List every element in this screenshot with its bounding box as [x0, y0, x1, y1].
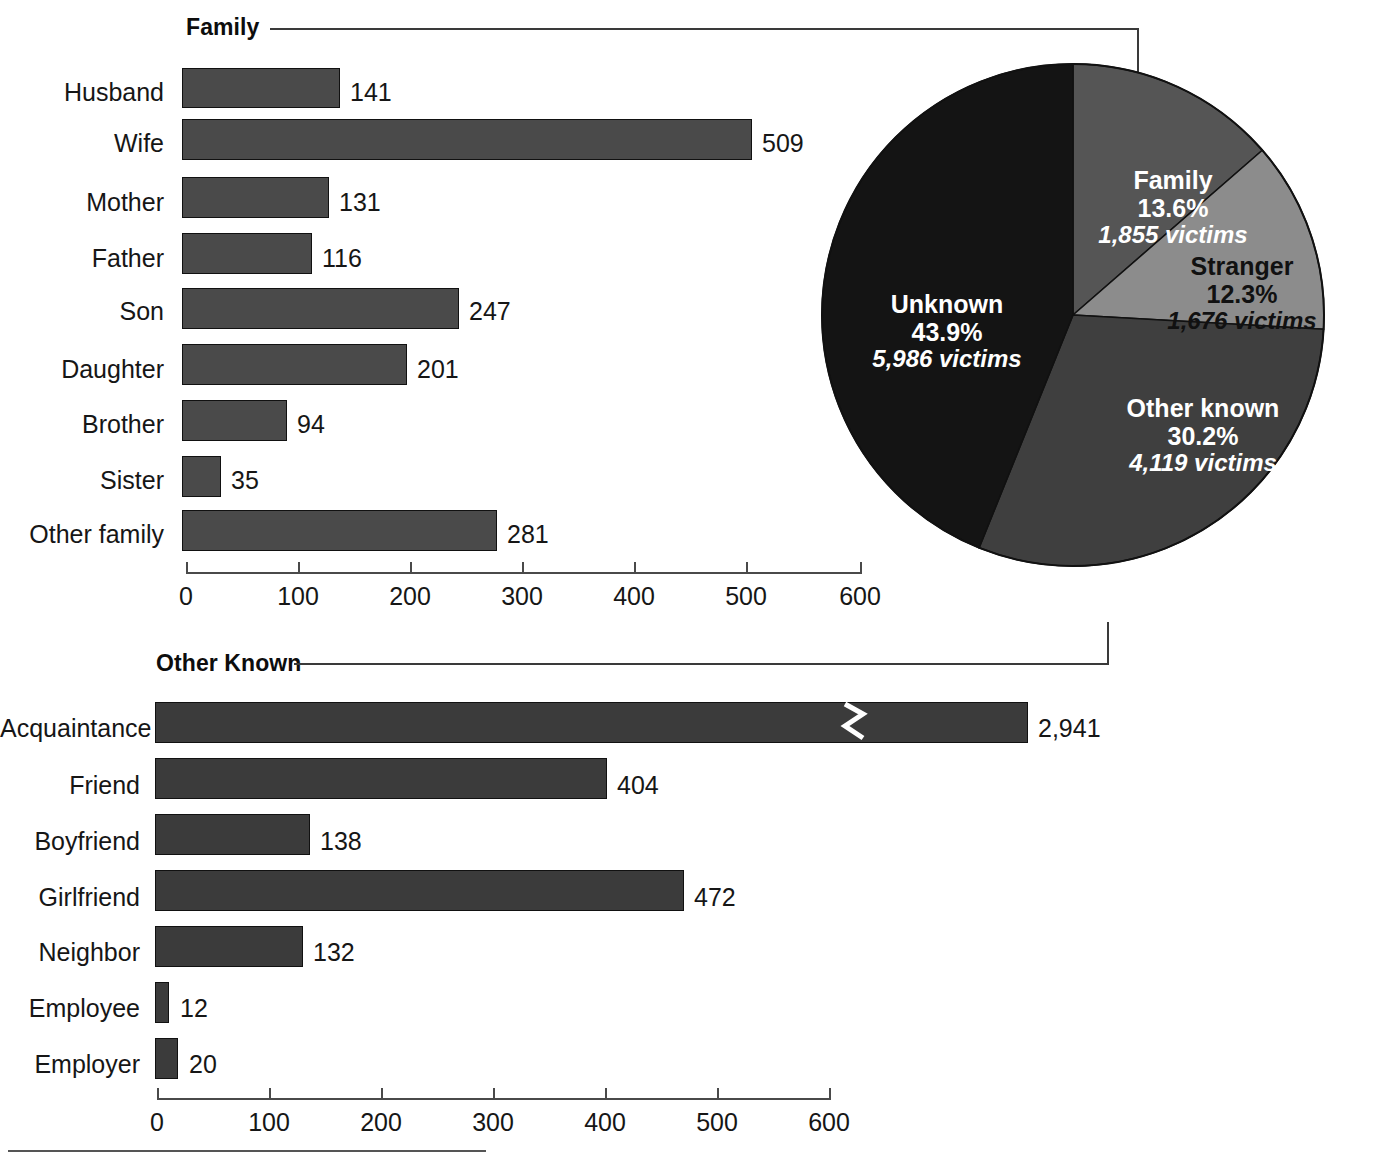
- bottom-row-label: Neighbor: [0, 940, 140, 965]
- bottom-value-label: 20: [189, 1052, 217, 1077]
- bottom-row-label: Friend: [0, 773, 140, 798]
- bottom-value-label: 12: [180, 996, 208, 1021]
- figure-canvas: Family Husband Wife Mother Father Son Da…: [0, 0, 1379, 1164]
- bottom-chart-title: Other Known: [156, 650, 301, 677]
- bottom-value-label: 132: [313, 940, 355, 965]
- bottom-value-label: 472: [694, 885, 736, 910]
- bottom-bar-employee: [155, 982, 169, 1023]
- bottom-bar-girlfriend: [155, 870, 684, 911]
- bottom-value-label: 2,941: [1038, 716, 1101, 741]
- bottom-bar-employer: [155, 1038, 178, 1079]
- top-bar-husband: [182, 68, 340, 108]
- top-bar-mother: [182, 177, 329, 218]
- top-row-label: Daughter: [0, 357, 164, 382]
- top-row-label: Mother: [0, 190, 164, 215]
- pie-svg: [820, 62, 1326, 568]
- top-xtick-label: 400: [594, 584, 674, 609]
- top-value-label: 141: [350, 80, 392, 105]
- top-row-label: Son: [0, 299, 164, 324]
- top-xtick-label: 600: [820, 584, 900, 609]
- top-value-label: 281: [507, 522, 549, 547]
- bottom-bar-neighbor: [155, 926, 303, 967]
- bottom-xtick-label: 500: [677, 1110, 757, 1135]
- top-bar-son: [182, 288, 459, 329]
- top-bar-daughter: [182, 344, 407, 385]
- top-row-label: Father: [0, 246, 164, 271]
- top-chart-title: Family: [186, 14, 259, 41]
- top-xtick-label: 500: [706, 584, 786, 609]
- top-xtick-label: 0: [156, 584, 216, 609]
- top-xtick-label: 200: [370, 584, 450, 609]
- bottom-row-label: Employee: [0, 996, 140, 1021]
- other-known-leader-horizontal: [294, 663, 1109, 665]
- bottom-bar-boyfriend: [155, 814, 310, 855]
- top-value-label: 509: [762, 131, 804, 156]
- top-row-label: Sister: [0, 468, 164, 493]
- other-known-leader-vertical: [1107, 622, 1109, 665]
- top-xtick-label: 300: [482, 584, 562, 609]
- top-bar-brother: [182, 400, 287, 441]
- top-value-label: 35: [231, 468, 259, 493]
- family-leader-horizontal: [270, 28, 1139, 30]
- bottom-xtick-label: 600: [789, 1110, 869, 1135]
- top-value-label: 201: [417, 357, 459, 382]
- bottom-row-label: Boyfriend: [0, 829, 140, 854]
- top-value-label: 247: [469, 299, 511, 324]
- top-row-label: Wife: [0, 131, 164, 156]
- top-row-label: Husband: [0, 80, 164, 105]
- bottom-xtick-label: 200: [341, 1110, 421, 1135]
- bottom-row-label: Acquaintance: [0, 716, 140, 741]
- bottom-bar-friend: [155, 758, 607, 799]
- bottom-value-label: 138: [320, 829, 362, 854]
- top-xtick-label: 100: [258, 584, 338, 609]
- footer-divider: [8, 1150, 486, 1152]
- top-value-label: 116: [322, 246, 362, 271]
- top-value-label: 131: [339, 190, 381, 215]
- top-row-label: Other family: [0, 522, 164, 547]
- bottom-xtick-label: 0: [127, 1110, 187, 1135]
- top-bar-wife: [182, 119, 752, 160]
- top-value-label: 94: [297, 412, 325, 437]
- top-bar-father: [182, 233, 312, 274]
- bottom-bar-acquaintance: [155, 702, 1028, 743]
- bottom-row-label: Girlfriend: [0, 885, 140, 910]
- bottom-xtick-label: 100: [229, 1110, 309, 1135]
- bottom-value-label: 404: [617, 773, 659, 798]
- top-bar-other-family: [182, 510, 497, 551]
- top-bar-sister: [182, 456, 221, 497]
- top-row-label: Brother: [0, 412, 164, 437]
- pie-chart: Family 13.6% 1,855 victims Stranger 12.3…: [820, 62, 1326, 568]
- bottom-row-label: Employer: [0, 1052, 140, 1077]
- bottom-xtick-label: 400: [565, 1110, 645, 1135]
- bottom-xtick-label: 300: [453, 1110, 533, 1135]
